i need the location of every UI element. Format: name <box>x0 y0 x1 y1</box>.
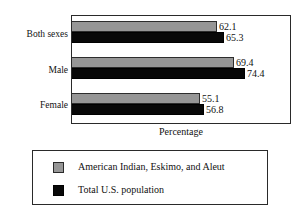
value-label-female-american-indian: 55.1 <box>200 93 220 104</box>
bar-female-american-indian <box>72 93 200 104</box>
value-label-both-sexes-total-us: 65.3 <box>224 32 244 43</box>
bar-both-sexes-total-us <box>72 32 224 43</box>
value-label-male-total-us: 74.4 <box>245 68 265 79</box>
value-label-both-sexes-american-indian: 62.1 <box>217 21 237 32</box>
black-swatch-icon <box>53 185 64 196</box>
plot-area: 62.1 65.3 69.4 74.4 55.1 56.8 <box>71 15 291 124</box>
bar-male-american-indian <box>72 57 234 68</box>
chart-legend: American Indian, Eskimo, and Aleut Total… <box>32 150 268 205</box>
x-axis-title: Percentage <box>71 126 291 138</box>
legend-item-total-us: Total U.S. population <box>33 179 267 201</box>
legend-label-american-indian: American Indian, Eskimo, and Aleut <box>78 161 225 173</box>
bars-layer: 62.1 65.3 69.4 74.4 55.1 56.8 <box>72 16 290 123</box>
legend-label-total-us: Total U.S. population <box>78 184 164 196</box>
category-label-female: Female <box>0 100 68 110</box>
category-label-both-sexes: Both sexes <box>0 29 68 39</box>
value-label-female-total-us: 56.8 <box>204 104 224 115</box>
bar-female-total-us <box>72 104 204 115</box>
bar-chart-figure: Both sexes Male Female 62.1 65.3 69.4 74… <box>0 0 304 222</box>
bar-both-sexes-american-indian <box>72 21 217 32</box>
category-axis: Both sexes Male Female <box>0 15 68 124</box>
legend-item-american-indian: American Indian, Eskimo, and Aleut <box>33 156 267 178</box>
gray-swatch-icon <box>53 162 64 173</box>
category-label-male: Male <box>0 65 68 75</box>
value-label-male-american-indian: 69.4 <box>234 57 254 68</box>
bar-male-total-us <box>72 68 245 79</box>
